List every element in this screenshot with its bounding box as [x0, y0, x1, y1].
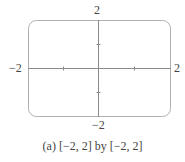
graph-window: [0, 0, 185, 162]
xmax-label: 2: [174, 62, 180, 74]
ymax-label: 2: [94, 4, 100, 16]
figure-caption: (a) [−2, 2] by [−2, 2]: [0, 140, 185, 153]
ymin-label: −2: [92, 119, 105, 131]
xmin-label: −2: [9, 62, 22, 74]
